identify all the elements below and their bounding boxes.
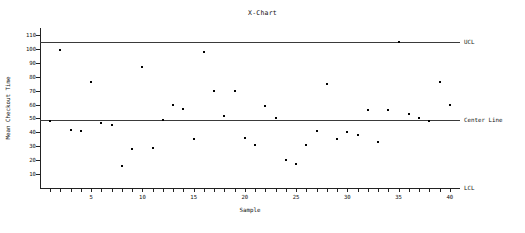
- y-tick-label: 10: [29, 171, 36, 177]
- x-tick-5: [91, 188, 92, 192]
- data-point: [387, 109, 389, 111]
- x-axis: 510152025303540: [40, 188, 460, 189]
- x-chart-container: X-Chart Mean Checkout Time 1020304050607…: [0, 0, 525, 233]
- y-axis-title-label: Mean Checkout Time: [5, 77, 11, 140]
- control-line-center-line: [40, 120, 460, 121]
- x-tick-9: [132, 188, 133, 192]
- data-point: [439, 81, 441, 83]
- data-point: [305, 144, 307, 146]
- data-point: [213, 90, 215, 92]
- data-point: [275, 117, 277, 119]
- data-point: [182, 108, 184, 110]
- y-tick-label: 110: [26, 32, 36, 38]
- data-point: [203, 51, 205, 53]
- x-tick-label-30: 30: [344, 194, 351, 200]
- x-tick-1: [50, 188, 51, 192]
- data-point: [223, 115, 225, 117]
- x-tick-13: [173, 188, 174, 192]
- x-tick-26: [306, 188, 307, 192]
- x-tick-2: [60, 188, 61, 192]
- x-tick-label-5: 5: [90, 194, 93, 200]
- y-tick-label: 100: [26, 46, 36, 52]
- data-point: [428, 120, 430, 122]
- data-point: [59, 49, 61, 51]
- data-point: [121, 165, 123, 167]
- y-tick-label: 60: [29, 102, 36, 108]
- data-point: [285, 159, 287, 161]
- x-tick-27: [317, 188, 318, 192]
- data-point: [80, 130, 82, 132]
- data-point: [418, 117, 420, 119]
- x-tick-30: [347, 188, 348, 192]
- x-tick-label-10: 10: [139, 194, 146, 200]
- data-point: [408, 113, 410, 115]
- y-tick-label: 90: [29, 60, 36, 66]
- x-tick-22: [265, 188, 266, 192]
- y-axis-title: Mean Checkout Time: [2, 28, 14, 188]
- data-point: [336, 138, 338, 140]
- x-tick-17: [214, 188, 215, 192]
- x-tick-12: [163, 188, 164, 192]
- data-point: [162, 119, 164, 121]
- x-tick-38: [429, 188, 430, 192]
- data-point: [346, 131, 348, 133]
- x-tick-19: [235, 188, 236, 192]
- x-tick-8: [122, 188, 123, 192]
- x-tick-label-15: 15: [190, 194, 197, 200]
- x-tick-24: [286, 188, 287, 192]
- x-tick-33: [378, 188, 379, 192]
- x-tick-20: [245, 188, 246, 192]
- x-tick-label-35: 35: [395, 194, 402, 200]
- x-tick-11: [153, 188, 154, 192]
- x-tick-21: [255, 188, 256, 192]
- y-tick-label: 80: [29, 74, 36, 80]
- control-line-label-UCL: UCL: [464, 39, 474, 45]
- data-point: [234, 90, 236, 92]
- data-point: [193, 138, 195, 140]
- data-point: [70, 129, 72, 131]
- data-point: [100, 122, 102, 124]
- data-point: [295, 163, 297, 165]
- x-tick-37: [419, 188, 420, 192]
- y-tick-label: 50: [29, 115, 36, 121]
- control-line-label-center-line: Center Line: [464, 117, 502, 123]
- x-tick-label-20: 20: [242, 194, 249, 200]
- x-tick-16: [204, 188, 205, 192]
- data-point: [111, 124, 113, 126]
- data-point: [326, 83, 328, 85]
- x-tick-23: [276, 188, 277, 192]
- data-point: [131, 148, 133, 150]
- data-point: [244, 137, 246, 139]
- data-point: [141, 66, 143, 68]
- y-tick-label: 70: [29, 88, 36, 94]
- x-axis-title: Sample: [40, 207, 460, 213]
- data-point: [264, 105, 266, 107]
- data-point: [377, 141, 379, 143]
- data-point: [357, 134, 359, 136]
- x-tick-10: [142, 188, 143, 192]
- x-tick-34: [388, 188, 389, 192]
- x-tick-15: [194, 188, 195, 192]
- chart-title: X-Chart: [0, 9, 525, 17]
- x-tick-7: [112, 188, 113, 192]
- x-tick-14: [183, 188, 184, 192]
- x-tick-label-25: 25: [293, 194, 300, 200]
- plot-area: UCLCenter LineLCL: [40, 28, 460, 188]
- data-point: [398, 41, 400, 43]
- x-tick-25: [296, 188, 297, 192]
- x-tick-3: [71, 188, 72, 192]
- x-tick-31: [358, 188, 359, 192]
- data-point: [90, 81, 92, 83]
- data-point: [316, 130, 318, 132]
- y-tick-label: 30: [29, 143, 36, 149]
- y-tick-label: 40: [29, 129, 36, 135]
- x-tick-28: [327, 188, 328, 192]
- x-tick-39: [440, 188, 441, 192]
- control-line-label-LCL: LCL: [464, 185, 474, 191]
- data-point: [172, 104, 174, 106]
- x-tick-29: [337, 188, 338, 192]
- x-tick-32: [368, 188, 369, 192]
- data-point: [152, 147, 154, 149]
- y-tick-label: 20: [29, 157, 36, 163]
- x-tick-6: [101, 188, 102, 192]
